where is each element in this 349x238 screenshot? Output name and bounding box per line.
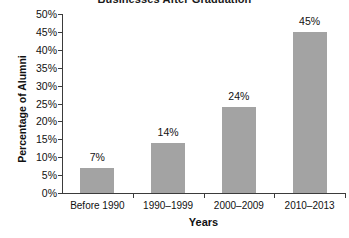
bar-value-label: 7%: [90, 151, 105, 163]
y-tick: [58, 121, 62, 122]
y-tick-label: 25%: [36, 98, 57, 110]
x-tick: [133, 193, 134, 198]
bar: [222, 107, 256, 193]
y-tick-label: 35%: [36, 62, 57, 74]
y-tick: [58, 32, 62, 33]
x-axis-title: Years: [62, 216, 345, 228]
x-tick: [345, 193, 346, 198]
y-tick-label: 20%: [36, 115, 57, 127]
y-tick: [58, 175, 62, 176]
y-tick-label: 30%: [36, 80, 57, 92]
y-tick: [58, 68, 62, 69]
x-category-label: Before 1990: [70, 200, 125, 211]
x-category-label: 2010–2013: [285, 200, 335, 211]
y-tick: [58, 193, 62, 194]
bar: [293, 32, 327, 193]
y-tick: [58, 14, 62, 15]
y-tick: [58, 50, 62, 51]
y-tick: [58, 104, 62, 105]
y-tick-label: 0%: [42, 187, 57, 199]
x-tick: [274, 193, 275, 198]
bar-value-label: 24%: [228, 90, 249, 102]
y-tick-label: 15%: [36, 133, 57, 145]
x-category-label: 2000–2009: [214, 200, 264, 211]
y-tick-label: 50%: [36, 8, 57, 20]
y-tick-label: 45%: [36, 26, 57, 38]
chart-title: Businesses After Graduation: [0, 0, 349, 5]
y-axis-title: Percentage of Alumni: [16, 29, 28, 189]
y-tick: [58, 157, 62, 158]
y-axis-line: [62, 14, 63, 193]
bar: [80, 168, 114, 193]
x-category-label: 1990–1999: [143, 200, 193, 211]
x-tick: [204, 193, 205, 198]
plot-area: 0%5%10%15%20%25%30%35%40%45%50% 7%14%24%…: [62, 14, 345, 193]
y-tick-label: 40%: [36, 44, 57, 56]
y-tick: [58, 139, 62, 140]
y-tick-label: 10%: [36, 151, 57, 163]
bar: [151, 143, 185, 193]
bar-value-label: 45%: [299, 15, 320, 27]
y-tick: [58, 86, 62, 87]
y-tick-label: 5%: [42, 169, 57, 181]
bar-chart: Businesses After Graduation Percentage o…: [0, 0, 349, 238]
bar-value-label: 14%: [158, 126, 179, 138]
